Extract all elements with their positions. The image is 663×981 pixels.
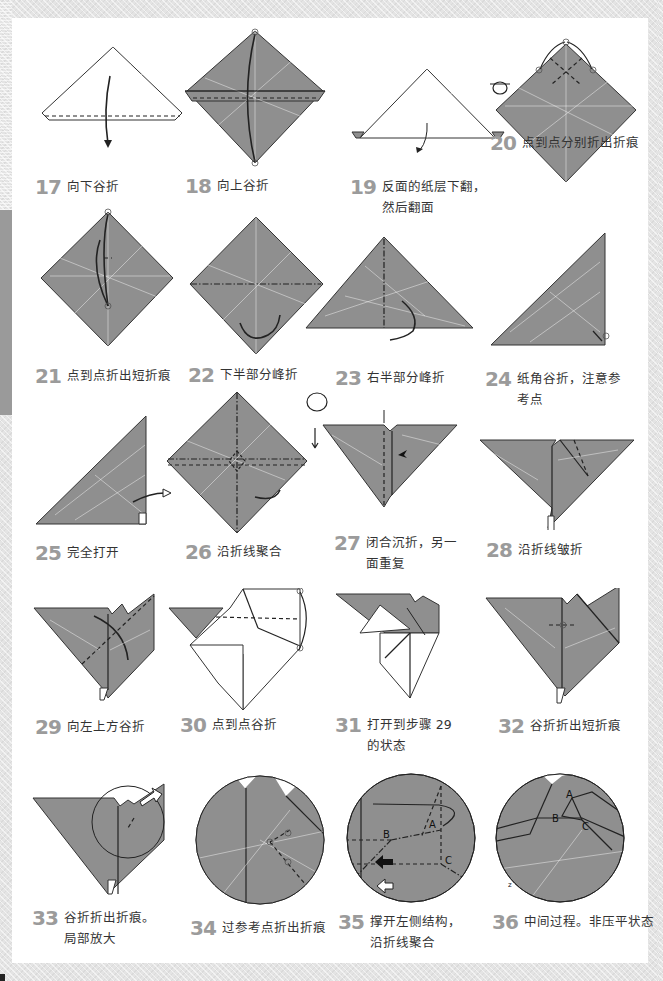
step-19-caption: 19 反面的纸层下翻， 然后翻面 (350, 177, 515, 219)
step-text-line-2: 面重复 (366, 553, 457, 575)
step-32-diagram (485, 588, 625, 708)
step-26-diagram (165, 390, 330, 535)
step-number: 27 (334, 533, 360, 553)
step-text: 向左上方谷折 (67, 716, 145, 738)
step-text-line-2: 的状态 (367, 735, 452, 757)
step-text-line-1: 反面的纸层下翻， (382, 176, 486, 198)
step-text: 过参考点折出折痕 (222, 917, 326, 939)
step-27-diagram (322, 405, 467, 515)
step-33-caption: 33 谷折折出折痕。 局部放大 (32, 908, 197, 950)
step-text: 点到点谷折 (212, 714, 277, 736)
step-number: 35 (338, 912, 364, 932)
step-34-diagram (190, 770, 330, 910)
step-number: 23 (335, 368, 361, 388)
step-text-line-2: 沿折线聚合 (370, 932, 461, 954)
step-text-line-1: 打开到步骤 29 (367, 714, 452, 736)
step-19-diagram (350, 60, 510, 160)
arrow-head-icon (104, 140, 112, 148)
step-33-diagram (32, 780, 172, 900)
step-number: 31 (335, 715, 361, 735)
step-29-diagram (30, 590, 165, 705)
step-29-caption: 29 向左上方谷折 (35, 717, 200, 738)
step-30-caption: 30 点到点谷折 (180, 715, 345, 736)
step-31-caption: 31 打开到步骤 29 的状态 (335, 715, 500, 757)
step-26-caption: 26 沿折线聚合 (185, 542, 350, 563)
step-35-caption: 35 撑开左侧结构， 沿折线聚合 (338, 912, 503, 954)
step-number: 19 (350, 177, 376, 197)
step-number: 22 (188, 365, 214, 385)
step-32-caption: 32 谷折折出短折痕 (498, 716, 663, 737)
step-number: 28 (486, 540, 512, 560)
step-text: 谷折折出短折痕 (530, 715, 621, 737)
step-number: 20 (490, 133, 516, 153)
step-text-line-2: 局部放大 (64, 928, 155, 950)
step-20-diagram (495, 36, 655, 186)
step-20-caption: 20 点到点分别折出折痕 (490, 133, 655, 154)
step-28-caption: 28 沿折线皱折 (486, 540, 651, 561)
step-number: 30 (180, 715, 206, 735)
step-text: 点到点分别折出折痕 (522, 132, 639, 154)
step-text-line-1: 纸角谷折，注意参 (517, 368, 621, 390)
label-a: A (566, 789, 573, 800)
page-edge-pattern (0, 0, 12, 210)
step-number: 21 (35, 366, 61, 386)
step-17-caption: 17 向下谷折 (35, 177, 200, 198)
step-36-diagram: A B C z (492, 770, 632, 910)
corner-mark (0, 974, 5, 981)
step-number: 36 (492, 912, 518, 932)
step-text: 完全打开 (67, 542, 119, 564)
step-27-caption: 27 闭合沉折，另一 面重复 (334, 533, 499, 575)
step-number: 24 (485, 369, 511, 389)
step-text: 中间过程。非压平状态 (524, 911, 654, 933)
step-number: 34 (190, 918, 216, 938)
step-21-caption: 21 点到点折出短折痕 (35, 366, 200, 387)
step-text: 点到点折出短折痕 (67, 365, 171, 387)
step-25-diagram (35, 415, 175, 530)
step-number: 17 (35, 177, 61, 197)
step-text-line-2: 考点 (517, 389, 621, 411)
step-17-diagram (35, 40, 195, 150)
step-18-diagram (185, 28, 345, 173)
step-23-diagram (305, 236, 480, 346)
step-number: 33 (32, 908, 58, 928)
step-22-caption: 22 下半部分峰折 (188, 365, 353, 386)
step-36-caption: 36 中间过程。非压平状态 (492, 912, 657, 933)
label-b: B (383, 829, 390, 840)
step-25-caption: 25 完全打开 (35, 543, 200, 564)
step-31-diagram (335, 593, 480, 703)
step-28-diagram (478, 420, 638, 530)
step-30-diagram (168, 588, 313, 718)
step-number: 25 (35, 543, 61, 563)
sink-arrow-icon (312, 428, 318, 448)
step-text: 向上谷折 (217, 175, 269, 197)
step-text: 下半部分峰折 (220, 364, 298, 386)
step-34-caption: 34 过参考点折出折痕 (190, 918, 355, 939)
step-text: 沿折线皱折 (518, 539, 583, 561)
step-text-line-2: 然后翻面 (382, 197, 486, 219)
step-18-caption: 18 向上谷折 (185, 176, 350, 197)
step-24-caption: 24 纸角谷折，注意参 考点 (485, 369, 650, 411)
label-c: C (445, 855, 452, 866)
step-35-diagram: B A C (343, 770, 483, 910)
step-number: 18 (185, 176, 211, 196)
step-number: 26 (185, 542, 211, 562)
step-text-line-1: 撑开左侧结构， (370, 911, 461, 933)
label-a: A (429, 819, 436, 830)
step-24-diagram (490, 232, 620, 347)
label-b: B (552, 813, 559, 824)
step-text-line-1: 谷折折出折痕。 (64, 907, 155, 929)
step-text: 右半部分峰折 (367, 367, 445, 389)
step-text: 向下谷折 (67, 176, 119, 198)
step-text-line-1: 闭合沉折，另一 (366, 532, 457, 554)
step-number: 32 (498, 716, 524, 736)
step-number: 29 (35, 717, 61, 737)
step-21-diagram (40, 208, 180, 348)
label-c: C (582, 821, 589, 832)
step-text: 沿折线聚合 (217, 541, 282, 563)
label-z: z (508, 881, 512, 889)
chapter-side-tab (0, 210, 12, 415)
step-23-caption: 23 右半部分峰折 (335, 368, 500, 389)
